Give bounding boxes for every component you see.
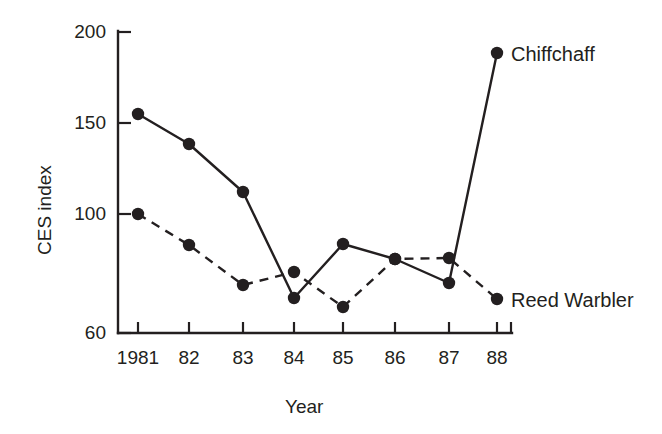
series-line-chiffchaff: [138, 53, 497, 298]
series-label-reed-warbler: Reed Warbler: [511, 289, 634, 312]
data-point: [443, 252, 455, 264]
data-point: [389, 253, 401, 265]
series-label-chiffchaff: Chiffchaff: [511, 43, 595, 66]
chart-figure: 20015010060 198182838485868788 CES index…: [0, 0, 662, 434]
x-axis-title: Year: [285, 396, 323, 418]
data-point: [237, 186, 249, 198]
data-point: [237, 279, 249, 291]
data-point: [183, 239, 195, 251]
data-point: [288, 266, 300, 278]
data-point: [491, 293, 503, 305]
x-tick-label-82: 82: [159, 348, 219, 367]
x-tick-label-85: 85: [313, 348, 373, 367]
data-point: [491, 47, 503, 59]
data-point: [337, 238, 349, 250]
y-tick-label-100: 100: [48, 204, 106, 223]
y-tick-label-60: 60: [48, 323, 106, 342]
data-point: [443, 277, 455, 289]
y-tick-label-200: 200: [48, 22, 106, 41]
data-point: [337, 301, 349, 313]
y-axis-ticks: [118, 32, 131, 333]
series-line-reed-warbler: [138, 214, 497, 307]
data-series-layer: [132, 47, 503, 313]
x-tick-label-88: 88: [467, 348, 527, 367]
x-axis-ticks: [138, 322, 511, 333]
y-tick-label-150: 150: [48, 113, 106, 132]
data-point: [288, 292, 300, 304]
data-point: [132, 108, 144, 120]
data-point: [132, 208, 144, 220]
x-tick-label-86: 86: [365, 348, 425, 367]
data-point: [183, 138, 195, 150]
y-axis-title: CES index: [34, 165, 56, 255]
